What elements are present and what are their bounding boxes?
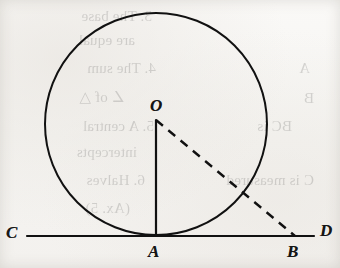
point-label-a: A: [148, 243, 159, 260]
point-label-o: O: [150, 97, 162, 114]
point-label-b: B: [287, 243, 298, 260]
figure-page: 3. The base are equal 4. The sum ∠ of △ …: [0, 0, 340, 268]
dashed-segment-ob: [156, 120, 295, 236]
point-label-c: C: [6, 224, 17, 241]
geometry-figure: [0, 0, 340, 268]
point-label-d: D: [320, 222, 332, 239]
